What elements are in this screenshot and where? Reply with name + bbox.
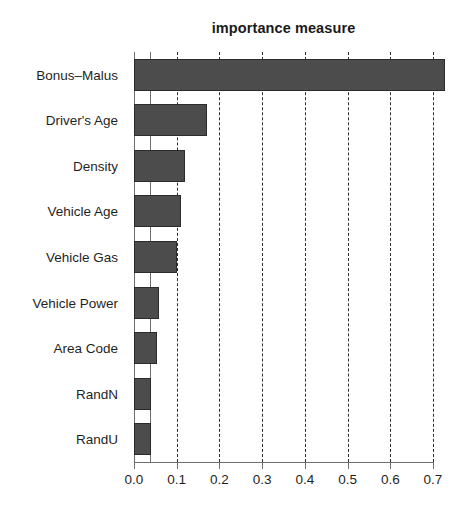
x-tick-mark — [305, 462, 306, 469]
bar[interactable] — [134, 59, 445, 91]
y-axis-label: RandN — [76, 386, 118, 401]
x-tick-mark — [177, 462, 178, 469]
x-tick-mark — [262, 462, 263, 469]
bar-row — [134, 150, 433, 182]
chart-title: importance measure — [134, 20, 433, 36]
x-tick-label: 0.1 — [167, 472, 186, 487]
bar-row — [134, 423, 433, 455]
bar-row — [134, 241, 433, 273]
y-axis-label: RandU — [76, 432, 118, 447]
bar[interactable] — [134, 332, 157, 364]
x-tick-mark — [348, 462, 349, 469]
y-axis-label: Bonus–Malus — [36, 67, 118, 82]
y-axis-label: Density — [73, 158, 118, 173]
y-axis-label: Area Code — [53, 341, 118, 356]
x-tick-mark — [219, 462, 220, 469]
x-tick-label: 0.0 — [125, 472, 144, 487]
bar[interactable] — [134, 104, 207, 136]
bar-row — [134, 195, 433, 227]
x-tick-label: 0.2 — [210, 472, 229, 487]
y-axis-label: Vehicle Gas — [46, 250, 118, 265]
x-tick-label: 0.3 — [253, 472, 272, 487]
x-axis-line — [134, 462, 433, 463]
plot-area — [134, 52, 433, 462]
gridline-0.7 — [433, 52, 434, 462]
bar-row — [134, 332, 433, 364]
y-axis-label: Vehicle Power — [32, 295, 118, 310]
bar[interactable] — [134, 378, 151, 410]
y-axis-category-labels: Bonus–MalusDriver's AgeDensityVehicle Ag… — [0, 52, 126, 462]
importance-measure-bar-chart: importance measure Bonus–MalusDriver's A… — [0, 0, 466, 505]
x-tick-label: 0.6 — [381, 472, 400, 487]
x-tick-label: 0.4 — [295, 472, 314, 487]
y-axis-label: Vehicle Age — [47, 204, 118, 219]
bar-row — [134, 287, 433, 319]
y-axis-label: Driver's Age — [46, 113, 118, 128]
x-tick-mark — [390, 462, 391, 469]
bar[interactable] — [134, 423, 151, 455]
x-tick-mark — [134, 462, 135, 469]
bar[interactable] — [134, 241, 177, 273]
bar-row — [134, 378, 433, 410]
x-tick-mark — [433, 462, 434, 469]
bar[interactable] — [134, 287, 159, 319]
bar-row — [134, 59, 433, 91]
x-tick-label: 0.7 — [424, 472, 443, 487]
bar[interactable] — [134, 195, 181, 227]
x-tick-label: 0.5 — [338, 472, 357, 487]
bar-row — [134, 104, 433, 136]
bar[interactable] — [134, 150, 185, 182]
